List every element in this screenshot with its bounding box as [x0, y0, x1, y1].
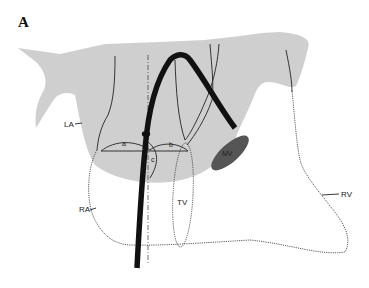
catheter-marker: [142, 131, 150, 137]
label-c: c: [151, 156, 155, 163]
left-heart-shaded-region: [18, 32, 309, 183]
panel-label: A: [18, 14, 29, 30]
label-la: LA: [64, 120, 74, 129]
rv-leader-line: [322, 194, 339, 195]
label-ra: RA: [79, 205, 91, 214]
heart-diagram: A LA RA RV TV MV a b c: [0, 0, 369, 288]
label-b: b: [169, 141, 173, 148]
label-a: a: [122, 140, 126, 147]
label-rv: RV: [341, 190, 353, 199]
label-mv: MV: [222, 150, 233, 157]
label-tv: TV: [177, 198, 188, 207]
